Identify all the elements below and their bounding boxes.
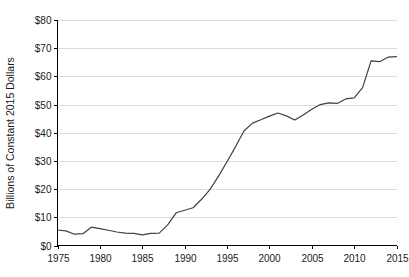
y-tick-label: $70 — [35, 43, 52, 54]
x-tick-label: 1985 — [131, 253, 154, 264]
y-tick-label: $60 — [35, 71, 52, 82]
y-tick-label: $0 — [40, 241, 52, 252]
x-tick-label: 1975 — [47, 253, 70, 264]
y-tick-label: $40 — [35, 128, 52, 139]
x-tick-label: 2000 — [258, 253, 281, 264]
y-tick-label: $10 — [35, 212, 52, 223]
x-tick-label: 1990 — [174, 253, 197, 264]
y-axis-title: Billions of Constant 2015 Dollars — [4, 57, 16, 209]
y-tick-label: $20 — [35, 184, 52, 195]
line-chart: $0$10$20$30$40$50$60$70$80 1975198019851… — [0, 0, 409, 277]
y-tick-label: $50 — [35, 100, 52, 111]
x-tick-label: 2015 — [386, 253, 409, 264]
x-tick-label: 1980 — [89, 253, 112, 264]
y-tick-label: $80 — [35, 15, 52, 26]
y-tick-label: $30 — [35, 156, 52, 167]
chart-background — [0, 0, 409, 277]
x-tick-label: 2005 — [301, 253, 324, 264]
x-tick-label: 1995 — [216, 253, 239, 264]
x-tick-label: 2010 — [343, 253, 366, 264]
chart-canvas: $0$10$20$30$40$50$60$70$80 1975198019851… — [0, 0, 409, 277]
